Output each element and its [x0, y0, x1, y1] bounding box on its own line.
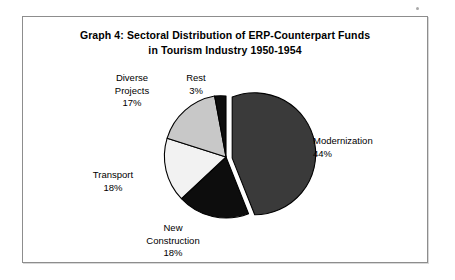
pie-label-diverse-projects-name-1: Diverse: [101, 72, 163, 85]
pie-label-new-construction-name-2: Construction: [119, 235, 227, 248]
pie-slice-modernization-group: [232, 93, 315, 215]
pie-label-transport-name: Transport: [79, 169, 147, 182]
pie-label-rest-pct: 3%: [175, 85, 217, 98]
pie-label-rest-name: Rest: [175, 72, 217, 85]
pie-label-modernization: Modernization 44%: [313, 135, 417, 160]
pie-label-diverse-projects: Diverse Projects 17%: [101, 72, 163, 110]
scan-artifact-speck: [416, 7, 419, 10]
pie-label-transport-pct: 18%: [79, 182, 147, 195]
pie-label-new-construction-name-1: New: [119, 222, 227, 235]
pie-label-new-construction: New Construction 18%: [119, 222, 227, 260]
pie-label-diverse-projects-pct: 17%: [101, 97, 163, 110]
pie-label-modernization-pct: 44%: [313, 148, 417, 161]
pie-chart: Diverse Projects 17% Rest 3% Modernizati…: [23, 17, 429, 264]
chart-frame: Graph 4: Sectoral Distribution of ERP-Co…: [22, 16, 428, 263]
pie-label-transport: Transport 18%: [79, 169, 147, 194]
pie-label-diverse-projects-name-2: Projects: [101, 85, 163, 98]
pie-slice-modernization[interactable]: [232, 93, 315, 215]
pie-label-new-construction-pct: 18%: [119, 247, 227, 260]
figure-page: Graph 4: Sectoral Distribution of ERP-Co…: [0, 0, 455, 280]
pie-label-modernization-name: Modernization: [313, 135, 417, 148]
pie-label-rest: Rest 3%: [175, 72, 217, 97]
